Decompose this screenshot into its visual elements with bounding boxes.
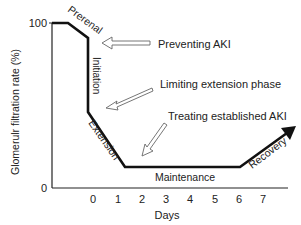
x-tick-2: 2 [139,193,145,205]
phase-initiation: Initiation [91,57,102,94]
x-axis-title: Days [154,209,180,221]
hollow-arrow-down-left-icon [142,123,167,156]
annotation-preventing-aki: Preventing AKI [158,38,231,50]
phase-recovery: Recovery [246,134,289,171]
y-axis-title: Glomerulr filtration rate (%) [9,49,21,175]
phase-extension: Extension [86,117,122,162]
y-tick-label-100: 100 [29,17,47,29]
phase-prerenal: Prerenal [66,3,105,36]
annotation-treating-established: Treating established AKI [168,110,287,122]
aki-gfr-diagram: 100 0 Glomerulr filtration rate (%) 0 1 … [0,0,301,225]
x-tick-3: 3 [163,193,169,205]
x-tick-7: 7 [260,193,266,205]
y-tick-label-0: 0 [41,182,47,194]
x-tick-5: 5 [212,193,218,205]
hollow-arrow-left-icon [102,37,150,49]
annotation-limiting-extension: Limiting extension phase [160,78,281,90]
x-tick-labels: 0 1 2 3 4 5 6 7 [90,193,266,205]
x-tick-0: 0 [90,193,96,205]
x-tick-6: 6 [236,193,242,205]
phase-maintenance: Maintenance [155,171,215,183]
x-tick-1: 1 [115,193,121,205]
x-tick-4: 4 [187,193,193,205]
hollow-arrow-down-left-icon [106,88,153,110]
